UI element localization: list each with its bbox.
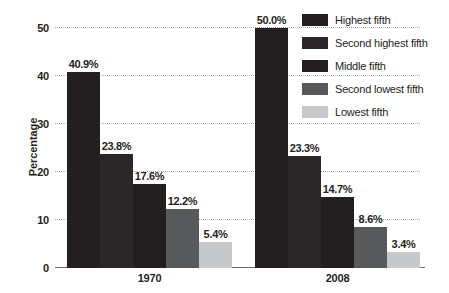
bar-value-label: 5.4% bbox=[204, 228, 228, 240]
bar: 8.6% bbox=[354, 227, 387, 268]
legend-label: Second highest fifth bbox=[335, 37, 428, 49]
bar: 3.4% bbox=[387, 252, 420, 268]
x-axis-group-label: 1970 bbox=[138, 272, 162, 284]
legend-item[interactable]: Lowest fifth bbox=[302, 104, 447, 119]
bar: 23.8% bbox=[100, 154, 133, 268]
bar: 5.4% bbox=[199, 242, 232, 268]
y-tick-label: 20 bbox=[37, 166, 49, 178]
bar: 40.9% bbox=[67, 72, 100, 268]
legend-label: Second lowest fifth bbox=[335, 83, 424, 95]
legend-swatch-icon bbox=[302, 106, 328, 118]
legend-label: Lowest fifth bbox=[335, 106, 388, 118]
bar-value-label: 23.3% bbox=[290, 142, 320, 154]
bar-value-label: 17.6% bbox=[135, 170, 165, 182]
x-axis-group-label: 2008 bbox=[326, 272, 350, 284]
bar: 12.2% bbox=[166, 209, 199, 268]
legend-item[interactable]: Middle fifth bbox=[302, 58, 447, 73]
y-tick-label: 0 bbox=[43, 262, 49, 274]
legend: Highest fifthSecond highest fifthMiddle … bbox=[302, 12, 447, 127]
legend-label: Middle fifth bbox=[335, 60, 386, 72]
bar-value-label: 50.0% bbox=[257, 14, 287, 26]
legend-label: Highest fifth bbox=[335, 14, 390, 26]
bar-value-label: 12.2% bbox=[168, 195, 198, 207]
y-tick-label: 10 bbox=[37, 214, 49, 226]
bar-value-label: 3.4% bbox=[392, 238, 416, 250]
y-tick-label: 30 bbox=[37, 118, 49, 130]
bar-value-label: 14.7% bbox=[323, 183, 353, 195]
legend-swatch-icon bbox=[302, 37, 328, 49]
y-tick-label: 40 bbox=[37, 70, 49, 82]
legend-swatch-icon bbox=[302, 14, 328, 26]
legend-item[interactable]: Highest fifth bbox=[302, 12, 447, 27]
y-tick-label: 50 bbox=[37, 22, 49, 34]
bar: 23.3% bbox=[288, 156, 321, 268]
bar-value-label: 40.9% bbox=[69, 58, 99, 70]
bar-value-label: 8.6% bbox=[359, 213, 383, 225]
legend-swatch-icon bbox=[302, 83, 328, 95]
bar-value-label: 23.8% bbox=[102, 140, 132, 152]
legend-item[interactable]: Second highest fifth bbox=[302, 35, 447, 50]
bar: 14.7% bbox=[321, 197, 354, 268]
legend-item[interactable]: Second lowest fifth bbox=[302, 81, 447, 96]
bar: 17.6% bbox=[133, 184, 166, 268]
bar: 50.0% bbox=[255, 28, 288, 268]
bar-chart: Percentage 50403020100 40.9%23.8%17.6%12… bbox=[0, 0, 449, 293]
legend-swatch-icon bbox=[302, 60, 328, 72]
